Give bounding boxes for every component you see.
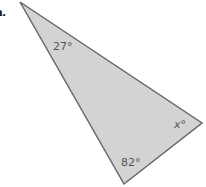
angle-top-label: 27° [53, 40, 73, 53]
triangle-diagram: 27° 82° x° [0, 0, 206, 187]
triangle [20, 2, 202, 184]
angle-right-label: x° [173, 118, 186, 131]
angle-bottom-label: 82° [121, 156, 141, 169]
